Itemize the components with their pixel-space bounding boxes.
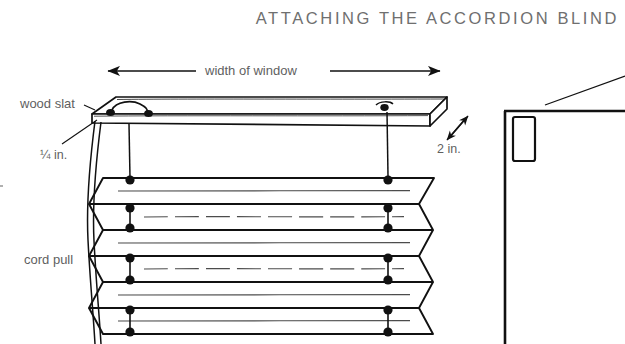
screw-eye-left-head [106, 109, 115, 116]
quarter-inch-leader-line [62, 120, 97, 144]
mounting-block-leader-line [545, 76, 625, 105]
label-cord-pull: cord pull [24, 252, 73, 267]
mounting-block [513, 117, 535, 161]
accordion-pleat-stack [89, 178, 434, 334]
label-slat-thickness: ¼ in. [40, 148, 67, 162]
screw-eye-left-tail [144, 110, 153, 117]
wood-slat-grain-line-top [117, 99, 444, 100]
screw-eye-right-head [380, 104, 388, 111]
cord-grommet [383, 175, 392, 184]
wood-slat-leader-line [84, 105, 95, 110]
accordion-blind-illustration [0, 0, 625, 344]
cord-grommet [125, 175, 134, 184]
illustration-page: ATTACHING THE ACCORDION BLIND [0, 0, 625, 344]
lift-cord-right [387, 112, 388, 176]
slat-depth-dimension [447, 116, 468, 140]
wood-slat-grain-line-front [94, 116, 428, 117]
label-slat-depth: 2 in. [437, 142, 461, 156]
window-frame-corner [504, 76, 625, 344]
lift-cord-left [129, 124, 130, 178]
label-wood-slat: wood slat [20, 96, 75, 111]
depth-arrow-down [447, 118, 466, 140]
cord-pull-strand-b [93, 122, 101, 344]
label-width-of-window: width of window [205, 63, 297, 78]
